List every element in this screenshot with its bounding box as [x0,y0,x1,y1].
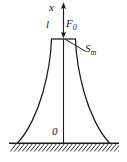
length-l-label: l [46,19,49,30]
origin-zero-label: 0 [52,126,58,137]
axis-x-label: x [49,2,54,13]
ground-hatching [9,143,125,153]
force-f0-subscript: 0 [73,23,77,32]
area-sm-label: Sm [85,43,96,57]
force-f0-label: F0 [66,18,77,32]
force-f0-base: F [66,17,73,29]
column-left-profile [18,39,52,143]
figure-container: x l F0 Sm 0 [0,0,127,162]
area-sm-subscript: m [91,48,97,57]
column-diagram-svg [0,0,127,162]
